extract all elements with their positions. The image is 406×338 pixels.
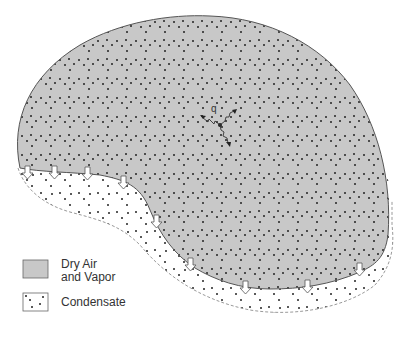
heat-flux-label: q — [211, 103, 217, 114]
legend-label-dry-air-line1: Dry Air — [61, 257, 97, 271]
legend-label-dry-air-line2: and Vapor — [61, 270, 116, 284]
condensation-diagram: q Dry Air and Vapor Condensate — [0, 0, 406, 338]
legend-swatch-dry-air — [23, 260, 48, 278]
legend-label-condensate: Condensate — [61, 295, 126, 309]
legend: Dry Air and Vapor Condensate — [23, 257, 126, 311]
dry-air-vapor-region — [18, 16, 389, 289]
